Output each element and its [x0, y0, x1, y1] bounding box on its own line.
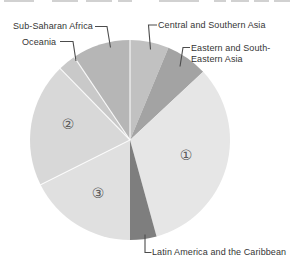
label-eastern-south-eastern-asia: Eastern and South-Eastern Asia	[191, 43, 275, 66]
pie-chart-figure: Sub-Saharan Africa Oceania Central and S…	[0, 0, 307, 272]
label-sub-saharan-africa: Sub-Saharan Africa	[13, 21, 93, 32]
label-latin-america-caribbean: Latin America and the Caribbean	[152, 247, 286, 258]
circled-number-2-marker: ②	[62, 116, 75, 132]
circled-number-1-marker: ①	[180, 147, 193, 163]
label-oceania: Oceania	[22, 37, 56, 48]
circled-number-3-marker: ③	[92, 185, 105, 201]
label-central-southern-asia: Central and Southern Asia	[158, 20, 266, 31]
